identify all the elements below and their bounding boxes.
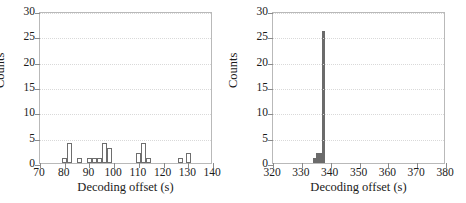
- x-axis-tick-label: 130: [179, 167, 196, 179]
- figure: Counts 051015202530 70809010011012013014…: [0, 0, 466, 203]
- gridline: [273, 140, 444, 141]
- chart-panel-right: Counts 051015202530 32033034035036037038…: [233, 0, 466, 203]
- histogram-bar: [77, 158, 82, 163]
- gridline: [40, 114, 211, 115]
- x-axis-title-left: Decoding offset (s): [39, 181, 212, 194]
- y-axis-tick: [35, 114, 40, 115]
- y-axis-tick-label: 10: [257, 108, 269, 120]
- histogram-bar: [107, 148, 112, 163]
- y-axis-tick: [35, 38, 40, 39]
- y-axis-tick-label: 20: [257, 57, 269, 69]
- y-axis-tick-label: 30: [24, 6, 36, 18]
- x-axis-tick-label: 120: [154, 167, 171, 179]
- y-axis-tick-label: 25: [257, 32, 269, 44]
- y-axis-tick: [268, 114, 273, 115]
- x-axis-tick-label: 350: [350, 167, 367, 179]
- histogram-bar: [186, 153, 191, 163]
- chart-panel-left: Counts 051015202530 70809010011012013014…: [0, 0, 233, 203]
- x-axis-tick-label: 320: [263, 167, 280, 179]
- y-axis-tick: [268, 89, 273, 90]
- x-axis-title-right: Decoding offset (s): [272, 181, 445, 194]
- y-axis-tick-label: 25: [24, 32, 36, 44]
- y-axis-tick: [35, 64, 40, 65]
- gridline: [273, 89, 444, 90]
- y-axis-tick-labels-right: 051015202530: [242, 12, 268, 164]
- histogram-bar: [67, 143, 72, 163]
- y-axis-tick: [268, 64, 273, 65]
- y-axis-tick: [268, 13, 273, 14]
- x-axis-tick-label: 100: [105, 167, 122, 179]
- histogram-bar: [146, 158, 151, 163]
- x-axis-tick-label: 140: [203, 167, 220, 179]
- y-axis-tick-label: 5: [29, 133, 35, 145]
- x-axis-tick-label: 80: [58, 167, 70, 179]
- y-axis-tick-label: 10: [24, 108, 36, 120]
- gridline: [273, 64, 444, 65]
- x-axis-tick-label: 380: [436, 167, 453, 179]
- x-axis-tick-label: 90: [83, 167, 95, 179]
- gridline: [40, 13, 211, 14]
- gridline: [40, 140, 211, 141]
- gridline: [40, 89, 211, 90]
- y-axis-tick: [35, 89, 40, 90]
- x-axis-tick-label: 360: [379, 167, 396, 179]
- y-axis-tick-label: 15: [24, 82, 36, 94]
- histogram-bar: [322, 31, 325, 163]
- plot-area-right: [272, 12, 445, 164]
- gridline: [273, 38, 444, 39]
- x-axis-tick-label: 340: [321, 167, 338, 179]
- y-axis-tick: [268, 140, 273, 141]
- y-axis-tick: [268, 38, 273, 39]
- y-axis-tick: [35, 13, 40, 14]
- y-axis-tick-label: 5: [262, 133, 268, 145]
- gridline: [40, 38, 211, 39]
- x-axis-tick-label: 110: [129, 167, 146, 179]
- x-axis-tick-label: 70: [33, 167, 45, 179]
- gridline: [273, 13, 444, 14]
- histogram-bar: [178, 158, 183, 163]
- y-axis-title-right: Counts: [227, 53, 240, 88]
- y-axis-tick-label: 15: [257, 82, 269, 94]
- y-axis-tick-label: 30: [257, 6, 269, 18]
- y-axis-tick-labels-left: 051015202530: [9, 12, 35, 164]
- y-axis-tick-label: 20: [24, 57, 36, 69]
- x-axis-tick-label: 370: [408, 167, 425, 179]
- x-axis-tick-label: 330: [292, 167, 309, 179]
- y-axis-tick: [35, 140, 40, 141]
- gridline: [40, 64, 211, 65]
- y-axis-title-left: Counts: [0, 53, 7, 88]
- plot-area-left: [39, 12, 212, 164]
- gridline: [273, 114, 444, 115]
